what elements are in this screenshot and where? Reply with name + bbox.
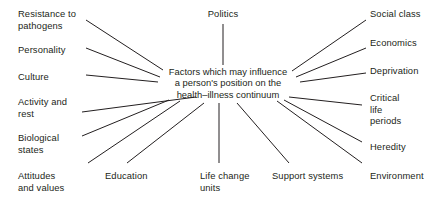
center-node-line-1: Factors which may influence (152, 66, 304, 77)
connector-deprivation (300, 73, 366, 82)
node-label-life-change-units: Life change units (200, 170, 264, 193)
node-label-heredity: Heredity (370, 141, 444, 153)
node-label-support-systems: Support systems (272, 170, 358, 182)
node-label-economics: Economics (370, 37, 444, 49)
connector-resistance-to-pathogens (86, 20, 163, 70)
connector-personality (86, 48, 160, 77)
node-label-deprivation: Deprivation (370, 65, 444, 77)
node-label-attitudes-and-values: Attitudes and values (18, 170, 96, 193)
node-label-environment: Environment (370, 170, 444, 182)
node-label-education: Education (105, 170, 175, 182)
node-label-resistance-to-pathogens: Resistance to pathogens (18, 8, 96, 31)
connector-culture (86, 75, 158, 82)
node-label-culture: Culture (18, 71, 96, 83)
connector-education (127, 103, 204, 163)
center-node: Factors which may influence a person's p… (152, 66, 304, 100)
node-label-social-class: Social class (370, 8, 444, 20)
center-node-line-2: a person's position on the (152, 77, 304, 88)
connector-environment (277, 101, 362, 163)
node-label-politics: Politics (188, 8, 258, 20)
diagram-canvas: Factors which may influence a person's p… (0, 0, 444, 203)
node-label-personality: Personality (18, 44, 96, 56)
connector-support-systems (237, 103, 289, 163)
node-label-biological-states: Biological states (18, 132, 96, 155)
connector-economics (296, 48, 366, 77)
connector-heredity (284, 100, 362, 142)
node-label-critical-life-periods: Critical life periods (370, 92, 444, 127)
node-label-activity-and-rest: Activity and rest (18, 96, 96, 119)
center-node-line-3: health–illness continuum (152, 89, 304, 100)
